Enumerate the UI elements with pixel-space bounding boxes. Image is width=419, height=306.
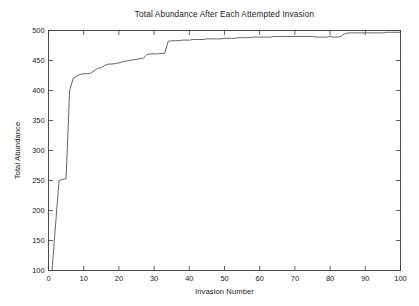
y-tick-label: 350 xyxy=(32,116,44,125)
y-tick-label: 150 xyxy=(32,236,44,245)
x-axis-label: Invasion Number xyxy=(195,287,254,296)
x-tick-label: 60 xyxy=(256,274,264,283)
y-tick-label: 250 xyxy=(32,176,44,185)
x-tick-label: 90 xyxy=(361,274,369,283)
plot-frame xyxy=(49,31,401,271)
chart-title: Total Abundance After Each Attempted Inv… xyxy=(135,10,315,19)
x-tick-label: 80 xyxy=(326,274,334,283)
y-tick-label: 200 xyxy=(32,206,44,215)
y-axis-label: Total Abundance xyxy=(13,122,22,180)
x-tick-label: 40 xyxy=(185,274,193,283)
y-tick-label: 400 xyxy=(32,86,44,95)
y-tick-label: 450 xyxy=(32,56,44,65)
y-tick-label: 100 xyxy=(32,266,44,275)
x-tick-label: 0 xyxy=(46,274,50,283)
x-tick-label: 20 xyxy=(115,274,123,283)
x-tick-label: 100 xyxy=(394,274,406,283)
y-tick-label: 300 xyxy=(32,146,44,155)
x-tick-label: 30 xyxy=(150,274,158,283)
x-tick-label: 50 xyxy=(220,274,228,283)
y-tick-label: 500 xyxy=(32,26,44,35)
figure-canvas: Total Abundance After Each Attempted Inv… xyxy=(0,0,419,306)
chart-plot: Total Abundance After Each Attempted Inv… xyxy=(0,0,419,306)
data-series-line xyxy=(49,32,401,270)
x-tick-label: 70 xyxy=(291,274,299,283)
x-tick-label: 10 xyxy=(80,274,88,283)
